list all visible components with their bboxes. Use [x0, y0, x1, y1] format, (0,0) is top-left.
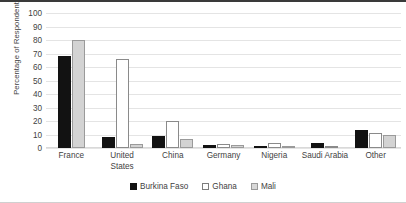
bar — [254, 146, 267, 148]
x-axis-tick-label: China — [147, 151, 198, 172]
bar-group — [198, 13, 249, 148]
legend-label: Mali — [261, 182, 276, 191]
bar — [231, 145, 244, 148]
chart-legend: Burkina FasoGhanaMali — [0, 182, 406, 191]
bar — [325, 146, 338, 148]
x-axis-tick-label: France — [46, 151, 97, 172]
bar — [311, 143, 324, 148]
bar — [58, 56, 71, 148]
bar-group — [350, 13, 401, 148]
y-axis-tick-label: 90 — [33, 22, 42, 31]
bar — [72, 40, 85, 148]
x-axis-tick-label: Germany — [198, 151, 249, 172]
bar — [268, 143, 281, 148]
bar-group — [300, 13, 351, 148]
legend-label: Ghana — [212, 182, 237, 191]
y-axis-tick-label: 50 — [33, 76, 42, 85]
bar — [383, 135, 396, 149]
y-axis-tick-label: 30 — [33, 103, 42, 112]
x-axis-tick-label: United States — [97, 151, 148, 172]
plot-area: 1009080706050403020100 — [46, 13, 401, 148]
bar-group — [147, 13, 198, 148]
bar — [217, 144, 230, 148]
bar-group — [249, 13, 300, 148]
bar — [203, 145, 216, 148]
legend-swatch-icon — [202, 183, 209, 190]
legend-item[interactable]: Burkina Faso — [130, 182, 188, 191]
legend-swatch-icon — [251, 183, 258, 190]
y-axis-tick-label: 100 — [28, 9, 42, 18]
x-axis-tick-label: Saudi Arabia — [300, 151, 351, 172]
bar — [180, 139, 193, 148]
x-axis-tick-label: Nigeria — [249, 151, 300, 172]
bar — [282, 146, 295, 148]
bar — [369, 133, 382, 148]
y-axis-tick-label: 0 — [37, 144, 42, 153]
bar — [152, 136, 165, 148]
gridline — [46, 148, 401, 149]
bottom-divider — [0, 202, 406, 203]
x-axis-labels: FranceUnited StatesChinaGermanyNigeriaSa… — [46, 151, 401, 172]
legend-swatch-icon — [130, 183, 137, 190]
bar — [102, 137, 115, 148]
y-axis-tick-label: 80 — [33, 36, 42, 45]
bar-groups — [46, 13, 401, 148]
bar — [355, 130, 368, 148]
bar — [130, 144, 143, 148]
bar-group — [46, 13, 97, 148]
y-axis-title: Percentage of Respondents — [12, 0, 21, 112]
bar-group — [97, 13, 148, 148]
y-axis-tick-label: 60 — [33, 63, 42, 72]
y-axis-tick-label: 20 — [33, 117, 42, 126]
chart-figure: Percentage of Respondents 10090807060504… — [0, 0, 406, 203]
legend-label: Burkina Faso — [140, 182, 188, 191]
y-axis-tick-label: 10 — [33, 130, 42, 139]
legend-item[interactable]: Ghana — [202, 182, 237, 191]
legend-item[interactable]: Mali — [251, 182, 276, 191]
y-axis-tick-label: 70 — [33, 49, 42, 58]
bar — [166, 121, 179, 148]
x-axis-tick-label: Other — [350, 151, 401, 172]
bar — [116, 59, 129, 148]
y-axis-tick-label: 40 — [33, 90, 42, 99]
